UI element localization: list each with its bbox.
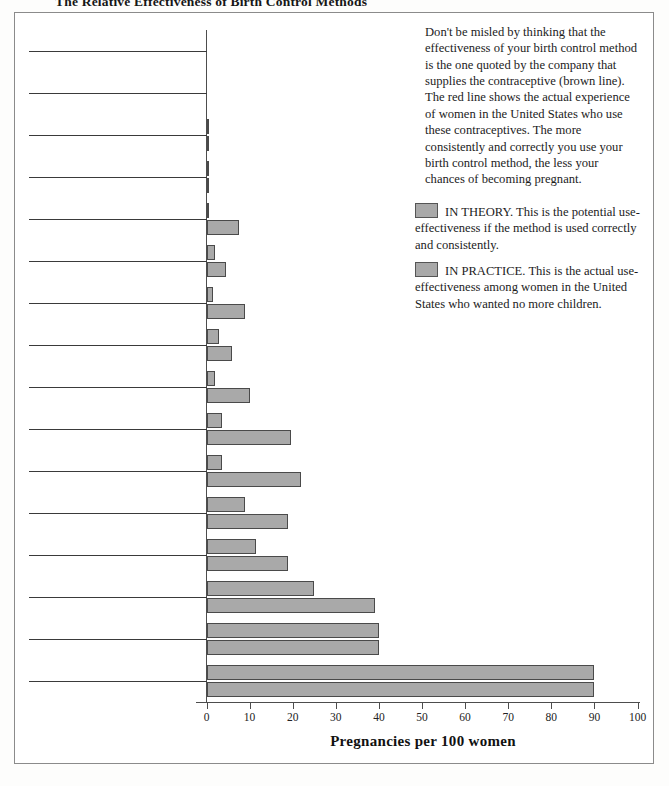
x-axis-tick-label: 70 xyxy=(502,711,514,723)
chart-title: The Relative Effectiveness of Birth Cont… xyxy=(55,0,475,7)
x-axis-tick-label: 0 xyxy=(204,711,210,723)
x-axis-tick xyxy=(508,702,509,709)
legend-item-in-practice: IN PRACTICE. This is the actual use-effe… xyxy=(415,262,643,312)
x-axis-tick-label: 60 xyxy=(459,711,471,723)
x-axis-tick xyxy=(250,702,251,709)
explanatory-note: Don't be misled by thinking that the eff… xyxy=(425,24,639,188)
legend-swatch-in-theory-icon xyxy=(415,203,438,218)
x-axis-tick xyxy=(551,702,552,709)
x-axis-tick xyxy=(422,702,423,709)
x-axis-tick-label: 20 xyxy=(287,711,299,723)
x-axis-tick xyxy=(336,702,337,709)
x-axis-tick xyxy=(293,702,294,709)
x-axis-tick xyxy=(594,702,595,709)
legend-swatch-in-practice-icon xyxy=(415,262,438,277)
legend-item-in-theory: IN THEORY. This is the potential use-eff… xyxy=(415,203,643,253)
x-axis-tick-label: 50 xyxy=(416,711,428,723)
x-axis-tick-label: 90 xyxy=(589,711,601,723)
x-axis-tick xyxy=(638,702,639,709)
x-axis-tick-label: 10 xyxy=(244,711,256,723)
x-axis-label: Pregnancies per 100 women xyxy=(206,733,640,750)
chart-page: The Relative Effectiveness of Birth Cont… xyxy=(0,0,669,786)
x-axis-tick-label: 30 xyxy=(330,711,342,723)
x-axis-tick xyxy=(379,702,380,709)
legend-label-in-practice: IN PRACTICE. This is the actual use-effe… xyxy=(415,264,638,311)
legend-label-in-theory: IN THEORY. This is the potential use-eff… xyxy=(415,205,640,252)
x-axis-tick-label: 40 xyxy=(373,711,385,723)
x-axis-tick xyxy=(207,702,208,709)
x-axis-tick-label: 100 xyxy=(629,711,646,723)
x-axis-tick xyxy=(465,702,466,709)
x-axis-tick-label: 80 xyxy=(546,711,558,723)
